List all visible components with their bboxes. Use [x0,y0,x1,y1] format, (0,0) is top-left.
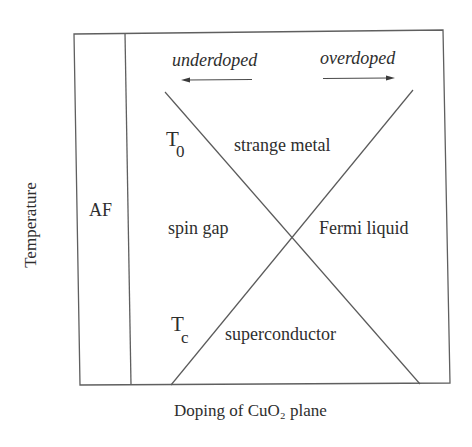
x-axis-label: Doping of CuO₂ plane [174,401,327,420]
region-af: AF [89,200,112,220]
underdoped-arrow-icon [181,78,252,83]
y-axis-label: Temperature [21,182,40,268]
svg-text:c: c [181,328,189,347]
region-strange-metal: strange metal [234,135,330,155]
overdoped-arrow-icon [323,76,395,81]
region-spin-gap: spin gap [168,218,229,238]
af-boundary-line [125,33,131,385]
region-fermi-liquid: Fermi liquid [319,218,409,238]
svg-text:0: 0 [176,142,185,161]
tc-label: T c [171,312,189,347]
region-superconductor: superconductor [225,324,336,344]
underdoped-label: underdoped [172,50,258,70]
phase-diagram: underdoped overdoped T 0 T c strange met… [0,0,472,447]
t0-label: T 0 [166,127,185,161]
overdoped-label: overdoped [320,48,396,68]
